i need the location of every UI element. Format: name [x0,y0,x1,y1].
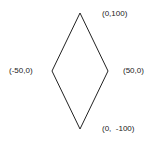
vertex-label-right: (50,0) [123,66,144,76]
vertex-label-bottom: (0, -100) [102,124,134,134]
vertex-label-top: (0,100) [102,9,127,19]
vertex-label-left: (-50,0) [9,66,33,76]
